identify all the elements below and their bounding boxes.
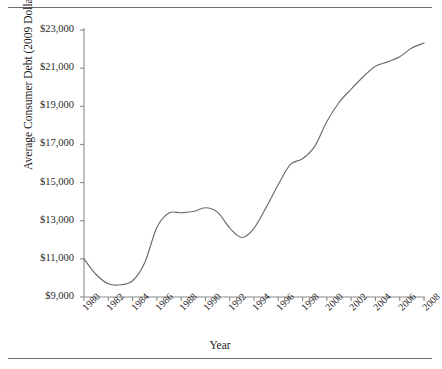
axes-group [84, 28, 425, 297]
y-axis-title: Average Consumer Debt (2009 Dollars) [22, 0, 34, 198]
y-tick-label: $17,000 [8, 137, 74, 148]
data-series-line [84, 43, 424, 285]
y-tick-label: $11,000 [8, 252, 74, 263]
y-tick-label: $21,000 [8, 61, 74, 72]
y-tick-label: $23,000 [8, 23, 74, 34]
y-tick-label: $13,000 [8, 214, 74, 225]
x-axis-title: Year [0, 339, 440, 351]
tick-marks-group [80, 30, 424, 301]
y-tick-label: $15,000 [8, 176, 74, 187]
y-tick-label: $9,000 [8, 290, 74, 301]
y-tick-label: $19,000 [8, 99, 74, 110]
